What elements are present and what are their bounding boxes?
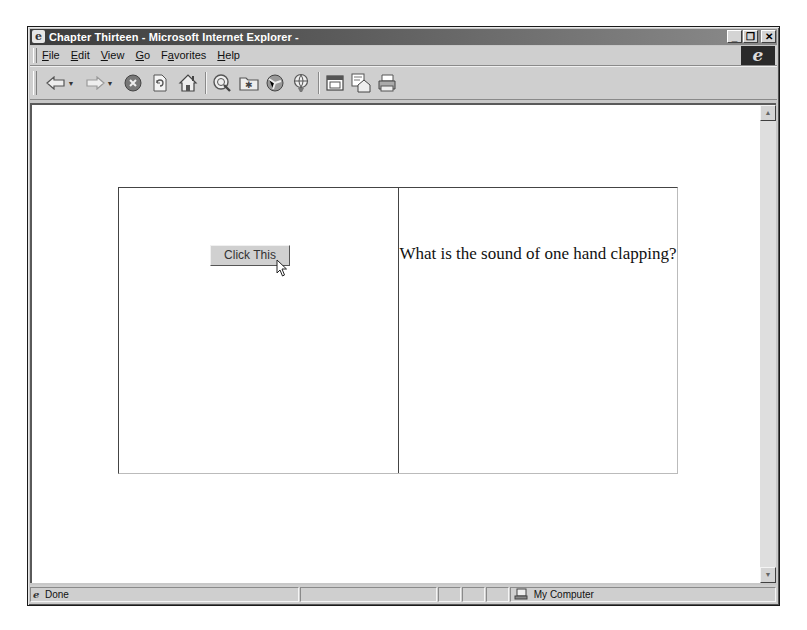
refresh-icon [152,74,168,92]
minimize-button[interactable]: _ [727,30,742,43]
menubar-grip[interactable] [33,48,37,63]
refresh-button[interactable] [149,71,171,95]
status-bar: eDone My Computer [30,585,777,603]
question-text: What is the sound of one hand clapping? [399,244,677,264]
print-icon [377,74,397,92]
standard-toolbar: ▼ ▼ ✱ [30,67,777,100]
close-button[interactable]: ✕ [761,30,776,43]
browser-window: e Chapter Thirteen - Microsoft Internet … [27,26,780,606]
channels-icon [292,73,310,93]
scroll-up-button[interactable]: ▲ [760,105,776,121]
back-icon [46,76,66,90]
back-dropdown-icon[interactable]: ▼ [68,80,75,87]
page-content: Click This What is the sound of one hand… [30,103,760,583]
history-icon [265,73,285,93]
status-panel-2 [462,587,485,602]
vertical-scrollbar[interactable]: ▲ ▼ [760,103,776,583]
search-icon [212,73,232,93]
ie-throbber-logo: e [741,46,775,65]
table-cell-right: What is the sound of one hand clapping? [399,188,677,473]
fullscreen-button[interactable] [323,71,347,95]
menu-favorites[interactable]: Favorites [161,49,206,61]
stop-button[interactable] [122,71,144,95]
status-panel-progress [300,587,437,602]
mouse-pointer-icon [276,259,288,277]
fullscreen-icon [326,75,344,91]
svg-text:✱: ✱ [245,80,253,90]
home-icon [178,74,198,92]
history-button[interactable] [263,71,287,95]
favorites-button[interactable]: ✱ [237,71,261,95]
menu-bar: File Edit View Go Favorites Help e [30,46,777,66]
mail-icon [351,73,371,93]
status-panel-main: eDone [30,587,299,602]
menu-file[interactable]: File [42,49,60,61]
my-computer-icon [514,588,528,600]
mail-button[interactable] [349,71,373,95]
content-table: Click This What is the sound of one hand… [118,187,678,474]
menu-edit[interactable]: Edit [71,49,90,61]
toolbar-grip[interactable] [33,71,37,95]
forward-dropdown-icon[interactable]: ▼ [107,80,114,87]
favorites-icon: ✱ [239,75,259,91]
menu-help[interactable]: Help [217,49,240,61]
toolbar-separator [205,72,207,94]
forward-icon [85,76,105,90]
menu-go[interactable]: Go [135,49,150,61]
zone-text: My Computer [534,589,594,600]
scroll-down-button[interactable]: ▼ [760,567,776,583]
title-bar[interactable]: e Chapter Thirteen - Microsoft Internet … [30,29,777,45]
channels-button[interactable] [289,71,313,95]
stop-icon [124,74,142,92]
ie-app-icon[interactable]: e [32,30,45,43]
table-cell-left: Click This [119,188,399,473]
window-title: Chapter Thirteen - Microsoft Internet Ex… [49,29,299,45]
toolbar-separator [318,72,320,94]
status-text: Done [45,589,69,600]
status-panel-zone: My Computer [510,587,776,602]
restore-button[interactable]: ❐ [743,30,758,43]
menu-view[interactable]: View [101,49,125,61]
home-button[interactable] [176,71,200,95]
back-button[interactable]: ▼ [43,71,77,95]
search-button[interactable] [210,71,234,95]
page-status-icon: e [33,588,43,601]
status-panel-3 [486,587,509,602]
print-button[interactable] [375,71,399,95]
status-panel-1 [438,587,461,602]
forward-button[interactable]: ▼ [82,71,116,95]
